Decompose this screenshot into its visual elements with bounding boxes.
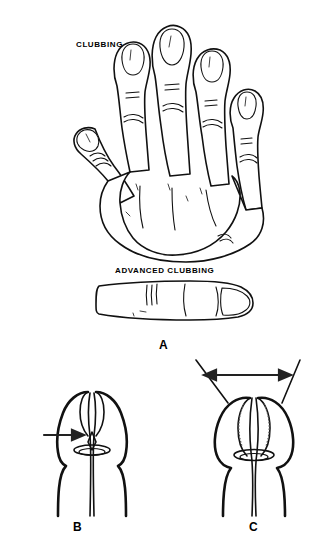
dorsal-hand-illustration bbox=[74, 25, 264, 262]
knuckle-mark-1 bbox=[136, 184, 138, 190]
nail-index bbox=[122, 44, 144, 75]
panel-letter-a: A bbox=[159, 339, 168, 351]
clubbing-figure: CLUBBING ADVANCED CLUBBING A B C bbox=[0, 0, 318, 550]
panel-c-dip-ellipse-inner bbox=[240, 454, 268, 461]
panel-c-left-finger-outline bbox=[215, 398, 250, 516]
panel-c-angle-line-left bbox=[196, 360, 228, 403]
tendon-line-1 bbox=[140, 186, 143, 228]
nail-middle bbox=[160, 29, 184, 65]
panel-c-right-nail bbox=[258, 398, 270, 456]
knuckle-mark-2 bbox=[168, 184, 170, 190]
tendon-line-3 bbox=[206, 190, 216, 226]
panel-letter-b: B bbox=[73, 521, 82, 533]
nail-ring bbox=[201, 51, 223, 82]
panel-b-right-nail bbox=[96, 392, 104, 436]
panel-c-angle-line-right bbox=[282, 360, 300, 403]
skin-mark-1 bbox=[126, 212, 130, 216]
caption-clubbing: CLUBBING bbox=[76, 41, 123, 49]
panel-c-angle-arrow-head-left bbox=[204, 370, 216, 380]
tendon-line-2 bbox=[172, 188, 175, 230]
panel-b-illustration bbox=[44, 392, 127, 516]
panel-b-left-nail bbox=[80, 392, 88, 436]
skin-mark-2 bbox=[186, 196, 188, 201]
nail-little bbox=[238, 92, 256, 119]
lateral-finger-illustration bbox=[96, 281, 253, 320]
knuckle-mark-3 bbox=[200, 188, 202, 194]
panel-c-left-nail bbox=[238, 398, 250, 456]
panel-letter-c: C bbox=[249, 521, 258, 533]
caption-advanced-clubbing: ADVANCED CLUBBING bbox=[115, 267, 214, 275]
panel-c-illustration bbox=[196, 360, 300, 516]
panel-c-dip-ellipse bbox=[234, 450, 274, 461]
figure-artwork bbox=[0, 0, 318, 550]
panel-b-arrow-head bbox=[72, 430, 84, 440]
panel-c-right-finger-outline bbox=[258, 398, 293, 516]
panel-c-angle-arrow-head-right bbox=[279, 370, 291, 380]
panel-c-contact-line-left bbox=[250, 398, 253, 516]
panel-c-contact-line-right bbox=[255, 398, 258, 516]
